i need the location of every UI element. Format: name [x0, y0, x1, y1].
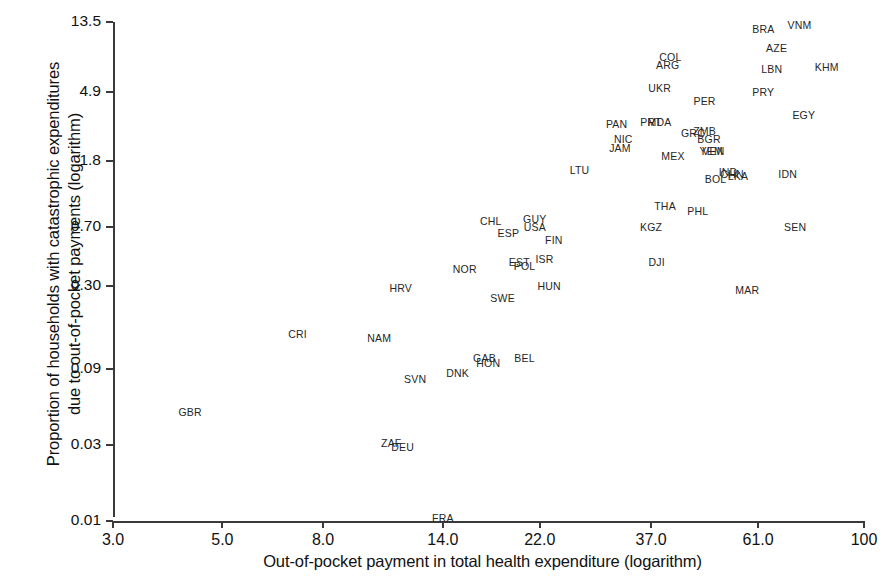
data-point-label: KGZ: [640, 221, 662, 233]
data-point-label: SVN: [404, 373, 426, 385]
x-axis-tick-label: 14.0: [427, 531, 458, 549]
data-point-label: VNM: [788, 19, 812, 31]
y-axis-tick-mark: [106, 91, 113, 93]
data-point-label: HUN: [538, 280, 561, 292]
y-axis-tick-label: 1.8: [0, 151, 101, 169]
data-point-label: CRI: [288, 328, 307, 340]
data-point-label: MEX: [661, 150, 684, 162]
y-axis-tick-mark: [106, 368, 113, 370]
data-point-label: MDA: [648, 116, 672, 128]
data-point-label: USA: [524, 221, 546, 233]
data-point-label: JAM: [609, 142, 631, 154]
y-axis-tick-label: 4.9: [0, 82, 101, 100]
y-axis-tick-label: 13.5: [0, 12, 101, 30]
data-point-label: SEN: [784, 221, 806, 233]
scatter-plot-figure: Proportion of households with catastroph…: [0, 0, 883, 584]
plot-area: VNMBRAAZECOLARGKHMLBNUKRPRYPEREGYPRTMDAP…: [113, 22, 864, 521]
y-axis-tick-mark: [106, 444, 113, 446]
data-point-label: PHL: [687, 205, 708, 217]
x-axis-tick-mark: [757, 521, 759, 528]
data-point-label: LKA: [728, 170, 748, 182]
data-point-label: UKR: [648, 82, 671, 94]
x-axis-tick-label: 8.0: [312, 531, 334, 549]
x-axis-tick-label: 61.0: [743, 531, 774, 549]
y-axis-tick-label: 0.30: [0, 276, 101, 294]
data-point-label: EGY: [792, 109, 815, 121]
y-axis-tick-mark: [106, 226, 113, 228]
x-axis-tick-label: 37.0: [635, 531, 666, 549]
y-axis-tick-mark: [106, 21, 113, 23]
data-point-label: MAR: [735, 284, 759, 296]
x-axis-tick-mark: [322, 521, 324, 528]
x-axis-tick-label: 100: [851, 531, 878, 549]
data-point-label: CHL: [480, 215, 502, 227]
data-point-label: BGR: [697, 133, 720, 145]
data-point-label: FRA: [432, 512, 454, 524]
data-point-label: POL: [514, 260, 536, 272]
data-point-label: PAN: [606, 118, 627, 130]
data-point-label: IDN: [778, 168, 797, 180]
x-axis-tick-mark: [112, 521, 114, 528]
x-axis-tick-mark: [221, 521, 223, 528]
data-point-label: KHM: [815, 61, 839, 73]
data-point-label: ARG: [656, 59, 679, 71]
data-point-label: LBN: [761, 63, 782, 75]
data-point-label: VEN: [702, 145, 724, 157]
x-axis-line: [113, 521, 864, 523]
data-point-label: BRA: [752, 23, 774, 35]
data-point-label: SWE: [490, 292, 515, 304]
data-point-label: DNK: [446, 367, 469, 379]
data-point-label: ESP: [498, 227, 520, 239]
x-axis-tick-label: 3.0: [102, 531, 124, 549]
data-point-label: NAM: [367, 332, 391, 344]
y-axis-tick-label: 0.09: [0, 359, 101, 377]
data-point-label: GBR: [178, 406, 201, 418]
y-axis-tick-label: 0.01: [0, 511, 101, 529]
data-point-label: HON: [476, 357, 500, 369]
data-point-label: ISR: [535, 253, 553, 265]
data-point-label: AZE: [766, 42, 787, 54]
x-axis-tick-label: 22.0: [524, 531, 555, 549]
data-point-label: BOL: [705, 173, 727, 185]
data-point-label: PRY: [752, 86, 774, 98]
data-point-label: THA: [654, 200, 676, 212]
x-axis-tick-label: 5.0: [211, 531, 233, 549]
x-axis-tick-mark: [539, 521, 541, 528]
y-axis-tick-mark: [106, 160, 113, 162]
data-point-label: BEL: [514, 352, 534, 364]
x-axis-title: Out-of-pocket payment in total health ex…: [110, 552, 855, 571]
y-axis-tick-label: 0.03: [0, 435, 101, 453]
data-point-label: PER: [693, 95, 715, 107]
data-point-label: LTU: [570, 164, 590, 176]
y-axis-tick-label: 0.70: [0, 217, 101, 235]
data-point-label: HRV: [389, 282, 412, 294]
x-axis-tick-mark: [650, 521, 652, 528]
data-point-label: DEU: [391, 441, 414, 453]
x-axis-tick-mark: [863, 521, 865, 528]
y-axis-tick-mark: [106, 285, 113, 287]
data-point-label: DJI: [649, 256, 665, 268]
data-point-label: NOR: [453, 263, 477, 275]
data-point-label: FIN: [545, 234, 563, 246]
